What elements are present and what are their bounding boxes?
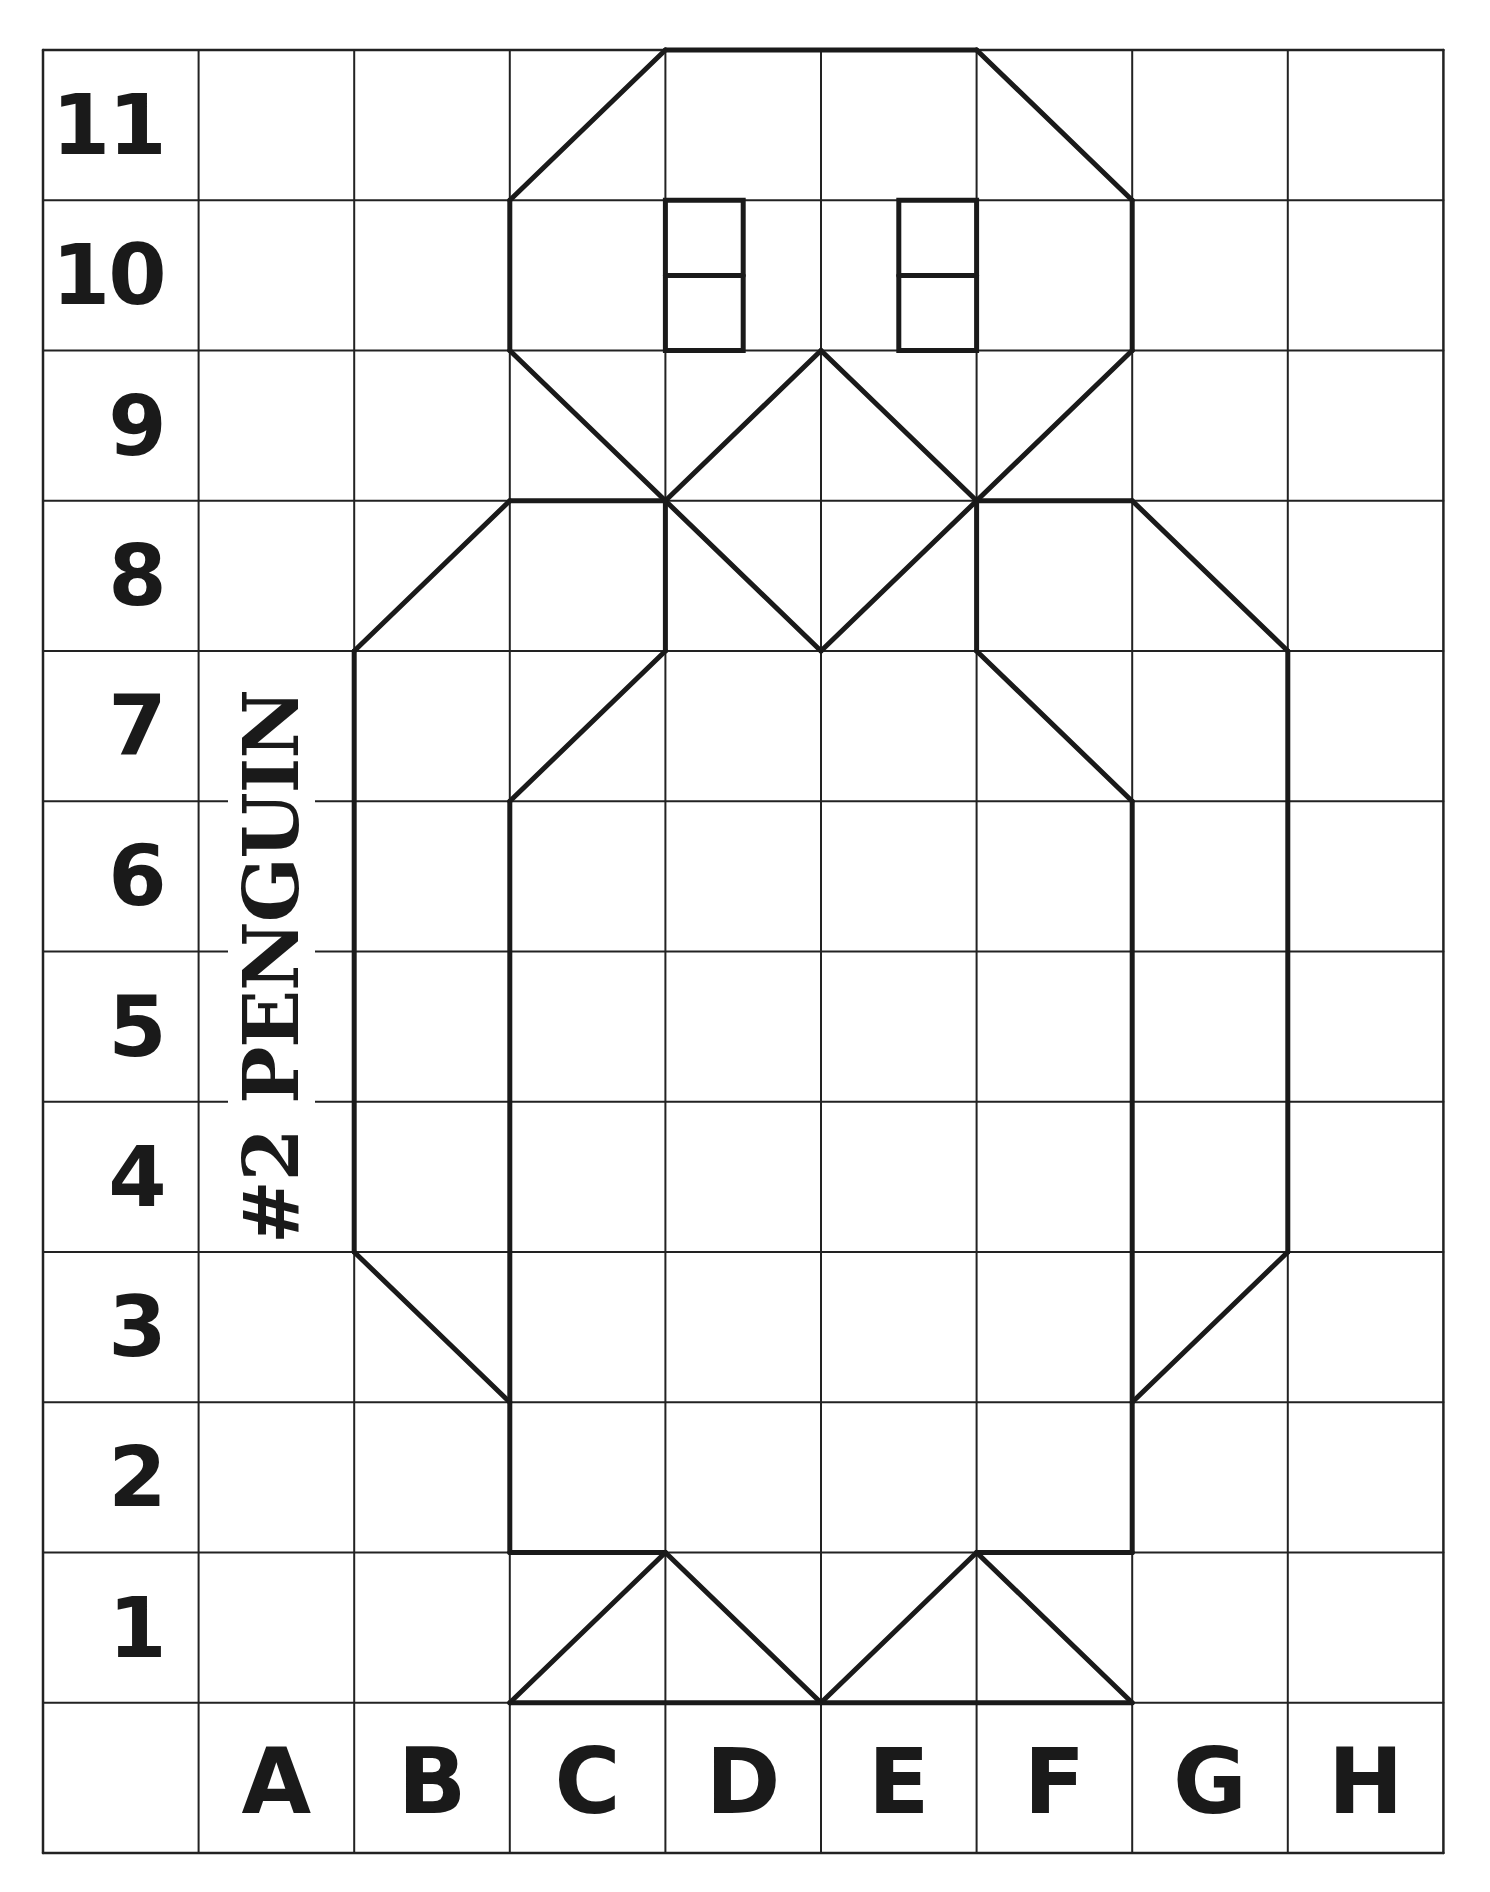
left-chest-diagonal-line — [510, 651, 666, 801]
head-right-upper-diagonal-line — [977, 50, 1133, 200]
row-label-2: 2 — [43, 1402, 199, 1552]
row-label-10: 10 — [43, 200, 199, 350]
column-label-c: C — [510, 1703, 666, 1853]
beak-upper-right-line — [821, 351, 977, 501]
head-right-lower-diagonal-line — [977, 351, 1133, 501]
worksheet-title: #2 PENGUIN — [234, 690, 310, 1244]
row-label-11: 11 — [43, 50, 199, 200]
left-foot-left-line — [510, 1553, 666, 1703]
beak-upper-left-line — [665, 351, 821, 501]
row-label-4: 4 — [43, 1102, 199, 1252]
row-label-9: 9 — [43, 351, 199, 501]
head-left-lower-diagonal-line — [510, 351, 666, 501]
worksheet-title-box: #2 PENGUIN — [228, 736, 315, 1198]
row-label-3: 3 — [43, 1252, 199, 1402]
head-left-upper-diagonal-line — [510, 50, 666, 200]
coordinate-grid-worksheet: 11 10 9 8 7 6 5 4 3 2 1 A B C D E F G H … — [0, 0, 1490, 1892]
right-flipper-bottom-diagonal-line — [1132, 1252, 1288, 1402]
beak-lower-left-line — [665, 501, 821, 651]
row-label-7: 7 — [43, 651, 199, 801]
right-flipper-top-diagonal-line — [1132, 501, 1288, 651]
column-label-d: D — [665, 1703, 821, 1853]
grid-drawing — [0, 0, 1490, 1892]
row-label-6: 6 — [43, 801, 199, 951]
column-label-a: A — [199, 1703, 355, 1853]
left-foot-right-line — [665, 1553, 821, 1703]
right-chest-diagonal-line — [977, 651, 1133, 801]
left-flipper-bottom-diagonal-line — [354, 1252, 510, 1402]
column-label-h: H — [1288, 1703, 1444, 1853]
right-foot-left-line — [821, 1553, 977, 1703]
column-label-e: E — [821, 1703, 977, 1853]
row-label-8: 8 — [43, 501, 199, 651]
left-flipper-top-diagonal-line — [354, 501, 510, 651]
column-label-g: G — [1132, 1703, 1288, 1853]
column-label-b: B — [354, 1703, 510, 1853]
right-foot-right-line — [977, 1553, 1133, 1703]
row-label-5: 5 — [43, 952, 199, 1102]
column-label-f: F — [977, 1703, 1133, 1853]
beak-lower-right-line — [821, 501, 977, 651]
row-label-1: 1 — [43, 1553, 199, 1703]
